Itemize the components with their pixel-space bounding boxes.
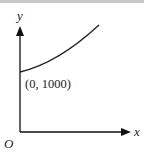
x-axis-label: x (133, 124, 140, 139)
curve (20, 25, 99, 72)
intercept-annotation: (0, 1000) (25, 77, 71, 91)
origin-label: O (4, 136, 14, 151)
y-axis-label: y (15, 8, 23, 23)
y-axis-arrow-icon (16, 26, 24, 36)
x-axis-arrow-icon (121, 128, 131, 136)
graph: y x O (0, 1000) (0, 0, 144, 155)
